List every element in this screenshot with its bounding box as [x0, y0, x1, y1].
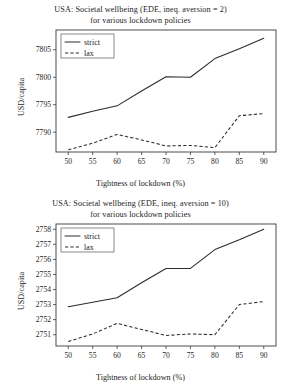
x-tick-label: 90: [260, 157, 268, 166]
x-tick-label: 55: [89, 157, 97, 166]
x-tick-label: 75: [187, 157, 195, 166]
x-tick-label: 75: [187, 351, 195, 360]
x-tick-label: 85: [236, 157, 244, 166]
x-tick-label: 50: [64, 351, 72, 360]
legend-label-strict: strict: [84, 38, 101, 47]
y-tick-label: 2754: [36, 285, 51, 294]
x-tick-label: 90: [260, 351, 268, 360]
legend-label-lax: lax: [84, 49, 94, 58]
legend-label-strict: strict: [84, 232, 101, 241]
y-tick-label: 2758: [36, 225, 51, 234]
x-tick-label: 80: [211, 157, 219, 166]
x-tick-label: 85: [236, 351, 244, 360]
chart-panel-aversion-2: USA: Societal wellbeing (EDE, ineq. aver…: [0, 0, 281, 194]
series-line-lax: [68, 114, 264, 150]
x-tick-label: 55: [89, 351, 97, 360]
y-tick-label: 2752: [36, 315, 51, 324]
y-tick-label: 2753: [36, 300, 51, 309]
y-tick-label: 7805: [36, 45, 51, 54]
y-tick-label: 2757: [36, 240, 51, 249]
chart-panel-aversion-10: USA: Societal wellbeing (EDE, ineq. aver…: [0, 194, 281, 388]
plot-area-1: 7790779578007805505560657075808590strict…: [0, 0, 281, 194]
y-tick-label: 7800: [36, 73, 51, 82]
x-tick-label: 70: [162, 157, 170, 166]
x-tick-label: 80: [211, 351, 219, 360]
y-tick-label: 2755: [36, 270, 51, 279]
y-tick-label: 7795: [36, 100, 51, 109]
y-tick-label: 2756: [36, 255, 51, 264]
x-tick-label: 60: [113, 157, 121, 166]
x-tick-label: 60: [113, 351, 121, 360]
x-tick-label: 50: [64, 157, 72, 166]
y-tick-label: 7790: [36, 128, 51, 137]
series-line-lax: [68, 302, 264, 342]
x-tick-label: 70: [162, 351, 170, 360]
x-tick-label: 65: [138, 157, 146, 166]
y-tick-label: 2751: [36, 330, 51, 339]
plot-area-2: 2751275227532754275527562757275850556065…: [0, 194, 281, 388]
x-tick-label: 65: [138, 351, 146, 360]
legend-label-lax: lax: [84, 243, 94, 252]
